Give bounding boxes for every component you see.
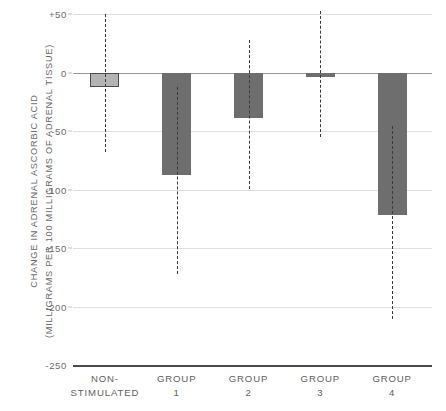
x-axis-label-2: GROUP2 <box>229 372 268 400</box>
x-axis-label-line: 4 <box>372 386 411 400</box>
axis-baseline <box>73 365 432 367</box>
error-bar-1 <box>177 87 178 274</box>
y-tick-label--250: -250 <box>45 360 67 371</box>
plot-area: +500-50-100-150-200-250 <box>73 14 432 365</box>
y-tick-label--150: -150 <box>45 243 67 254</box>
error-bar-2 <box>249 40 250 190</box>
y-tick-label--200: -200 <box>45 301 67 312</box>
gridline--150 <box>73 248 432 249</box>
x-axis-label-line: GROUP <box>229 372 268 386</box>
x-axis-label-line: NON- <box>71 372 140 386</box>
x-axis-labels: NON-STIMULATEDGROUP1GROUP2GROUP3GROUP4 <box>73 372 432 408</box>
x-axis-label-4: GROUP4 <box>372 372 411 400</box>
x-axis-label-line: STIMULATED <box>71 386 140 400</box>
x-axis-label-line: GROUP <box>157 372 196 386</box>
x-axis-label-3: GROUP3 <box>301 372 340 400</box>
y-axis-title-line-1: CHANGE IN ADRENAL ASCORBIC ACID <box>27 94 42 287</box>
y-tick-mark <box>68 306 72 307</box>
error-bar-0 <box>105 14 106 152</box>
x-axis-label-line: 2 <box>229 386 268 400</box>
y-tick-mark <box>68 189 72 190</box>
x-axis-label-line: 1 <box>157 386 196 400</box>
error-bar-4 <box>392 126 393 319</box>
x-axis-label-1: GROUP1 <box>157 372 196 400</box>
x-axis-label-line: GROUP <box>372 372 411 386</box>
bar-chart: CHANGE IN ADRENAL ASCORBIC ACID (MILLIGR… <box>0 0 446 411</box>
x-axis-label-line: GROUP <box>301 372 340 386</box>
y-tick-label-0: 0 <box>61 67 67 78</box>
x-axis-label-0: NON-STIMULATED <box>71 372 140 400</box>
y-tick-label-+50: +50 <box>49 9 67 20</box>
y-tick-mark <box>68 14 72 15</box>
gridline-50 <box>73 14 432 15</box>
y-tick-mark <box>68 248 72 249</box>
x-axis-label-line: 3 <box>301 386 340 400</box>
y-tick-mark <box>68 131 72 132</box>
y-tick-label--50: -50 <box>51 126 67 137</box>
y-tick-mark <box>68 72 72 73</box>
y-tick-label--100: -100 <box>45 184 67 195</box>
gridline--200 <box>73 307 432 308</box>
error-bar-3 <box>320 11 321 137</box>
